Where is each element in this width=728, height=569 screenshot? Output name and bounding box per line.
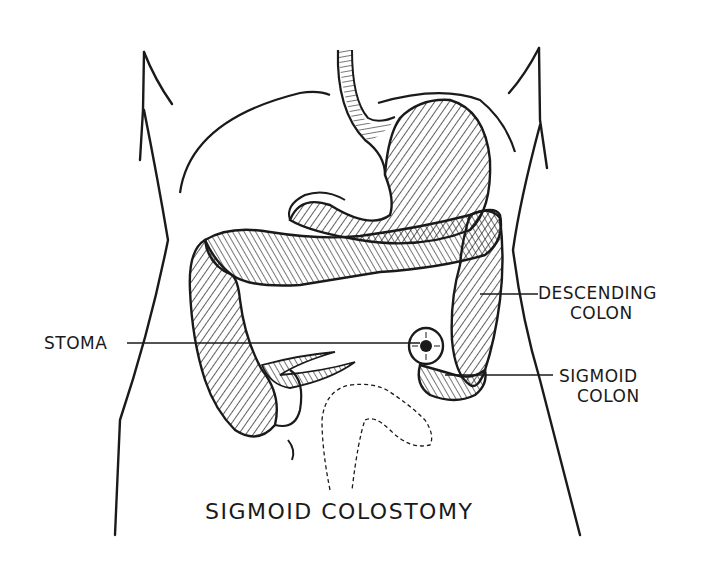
stoma	[409, 328, 443, 364]
label-descending-colon-line1: DESCENDING	[538, 283, 657, 303]
rectum-dashed-outline	[322, 384, 432, 490]
diagram-title: SIGMOID COLOSTOMY	[205, 502, 473, 522]
label-descending-colon-line2: COLON	[538, 303, 657, 323]
label-sigmoid-colon-line2: COLON	[559, 386, 640, 406]
label-descending-colon: DESCENDING COLON	[538, 283, 657, 323]
small-bowel-loop	[262, 352, 355, 388]
torso-outline	[115, 48, 580, 535]
label-stoma: STOMA	[44, 333, 107, 353]
sigmoid-colostomy-diagram: DESCENDING COLON STOMA SIGMOID COLON SIG…	[0, 0, 728, 569]
label-stoma-line1: STOMA	[44, 333, 107, 353]
label-sigmoid-colon-line1: SIGMOID	[559, 366, 640, 386]
label-sigmoid-colon: SIGMOID COLON	[559, 366, 640, 406]
